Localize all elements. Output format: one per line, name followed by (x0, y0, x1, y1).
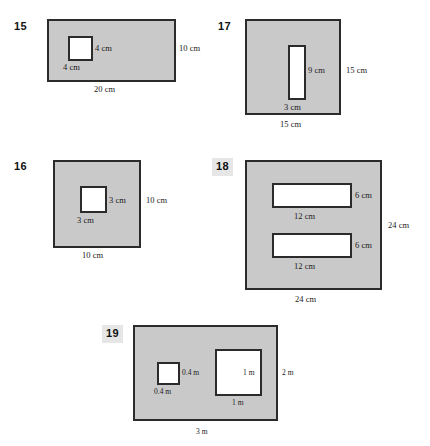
figure-19-hole-1 (157, 362, 180, 385)
figure-17-outer-width-label: 15 cm (280, 120, 301, 129)
problem-number-15: 15 (14, 21, 27, 32)
figure-19-hole-2-height-label: 1 m (243, 369, 254, 377)
problem-number-17: 17 (218, 21, 231, 32)
figure-15-hole-height-label: 4 cm (95, 44, 112, 53)
figure-17-outer-height-label: 15 cm (346, 66, 367, 75)
figure-15-outer-height-label: 10 cm (179, 44, 200, 53)
figure-18-hole-1 (272, 183, 352, 208)
figure-18-hole-1-width-label: 12 cm (294, 212, 315, 221)
figure-19-outer-height-label: 2 m (282, 369, 293, 377)
figure-17-hole-height-label: 9 cm (308, 66, 325, 75)
problem-number-18: 18 (212, 158, 233, 176)
figure-15-hole-1 (68, 36, 93, 61)
figure-18-hole-2 (272, 233, 352, 258)
figure-18-outer-height-label: 24 cm (388, 221, 409, 230)
figure-17-hole-1 (288, 45, 306, 100)
figure-16-hole-1 (80, 186, 107, 213)
figure-16-outer-height-label: 10 cm (146, 196, 167, 205)
figure-15-outer-width-label: 20 cm (94, 85, 115, 94)
figure-19-hole-2 (215, 349, 262, 396)
figure-16-hole-height-label: 3 cm (109, 196, 126, 205)
figure-15-hole-width-label: 4 cm (63, 63, 80, 72)
figure-19-hole-2-width-label: 1 m (232, 399, 243, 407)
figure-18-hole-2-width-label: 12 cm (294, 262, 315, 271)
figure-19-outer-width-label: 3 m (196, 428, 207, 436)
figure-18-hole-1-height-label: 6 cm (355, 191, 372, 200)
figure-16-hole-width-label: 3 cm (77, 216, 94, 225)
figure-19-hole-1-width-label: 0.4 m (154, 388, 171, 396)
figure-19-hole-1-height-label: 0.4 m (182, 369, 199, 377)
figure-17-hole-width-label: 3 cm (284, 103, 301, 112)
figure-18-outer-width-label: 24 cm (295, 295, 316, 304)
figure-16-outer-width-label: 10 cm (82, 251, 103, 260)
figure-18-hole-2-height-label: 6 cm (355, 241, 372, 250)
worksheet-page: { "page": { "title": "Area of composite … (0, 0, 430, 446)
problem-number-16: 16 (14, 161, 27, 172)
problem-number-19: 19 (102, 325, 123, 343)
